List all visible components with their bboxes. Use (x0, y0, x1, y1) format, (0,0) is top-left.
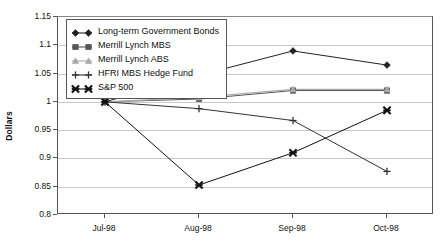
line-chart: Dollars 1.151.11.0510.950.90.850.8 Jul-9… (0, 0, 440, 252)
data-point-cross-bold (383, 107, 391, 114)
legend-item[interactable]: Merrill Lynch ABS (71, 52, 219, 66)
legend-item-label: HFRI MBS Hedge Fund (98, 69, 193, 78)
legend-item[interactable]: Long-term Government Bonds (71, 24, 219, 38)
x-tick-label: Aug-98 (168, 224, 228, 233)
data-point-cross-bold (195, 181, 203, 188)
legend-marker-triangle-icon (71, 53, 93, 65)
data-point-cross-bold (85, 85, 93, 92)
data-point-cross-bold (289, 149, 297, 156)
legend: Long-term Government BondsMerrill Lynch … (66, 19, 227, 99)
legend-marker-diamond-icon (71, 25, 93, 37)
data-point-square (73, 44, 78, 49)
legend-item-label: S&P 500 (98, 83, 133, 92)
legend-item-label: Merrill Lynch ABS (98, 55, 169, 64)
data-point-square (86, 44, 91, 49)
data-point-plus (383, 168, 390, 175)
data-point-plus (289, 117, 296, 124)
legend-item[interactable]: S&P 500 (71, 80, 219, 94)
legend-marker-square-icon (71, 39, 93, 51)
data-point-diamond (85, 30, 92, 37)
legend-item[interactable]: HFRI MBS Hedge Fund (71, 66, 219, 80)
data-point-plus (85, 71, 92, 78)
legend-marker-cross-bold-icon (71, 81, 93, 93)
data-point-diamond (384, 62, 391, 69)
data-point-diamond (72, 30, 79, 37)
data-point-diamond (290, 48, 297, 55)
x-tick-label: Oct-98 (356, 224, 416, 233)
legend-item-label: Long-term Government Bonds (98, 27, 219, 36)
data-point-plus (195, 105, 202, 112)
legend-marker-plus-icon (71, 67, 93, 79)
data-point-plus (72, 71, 79, 78)
series-line (105, 102, 387, 172)
x-tick-label: Sep-98 (262, 224, 322, 233)
data-point-cross-bold (72, 85, 80, 92)
legend-item-label: Merrill Lynch MBS (98, 41, 171, 50)
legend-item[interactable]: Merrill Lynch MBS (71, 38, 219, 52)
x-tick-label: Jul-98 (74, 224, 134, 233)
